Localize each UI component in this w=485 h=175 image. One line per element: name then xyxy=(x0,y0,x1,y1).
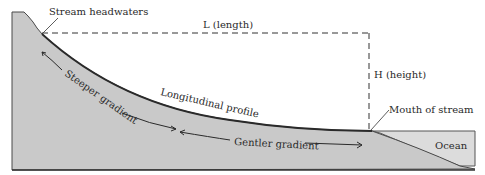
mouth-of-stream-label: Mouth of stream xyxy=(389,104,474,115)
headwaters-label: Stream headwaters xyxy=(49,6,148,17)
ocean-label: Ocean xyxy=(435,140,468,151)
headwaters-leader xyxy=(42,18,58,34)
height-label: H (height) xyxy=(374,69,426,80)
mouth-leader xyxy=(371,110,389,130)
length-label: L (length) xyxy=(203,19,253,30)
stream-profile-diagram: Stream headwaters L (length) H (height) … xyxy=(0,0,485,175)
